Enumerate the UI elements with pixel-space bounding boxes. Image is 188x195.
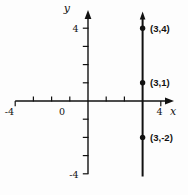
- x-axis-arrowhead-icon: [165, 98, 174, 105]
- y-axis-variable-label: y: [63, 2, 71, 15]
- coordinate-plane-figure: (3,4)(3,1)(3,-2) y x 4 -4 0 -4 4: [0, 0, 188, 195]
- series-layer: [140, 12, 146, 177]
- data-point: [140, 135, 145, 140]
- x-axis-variable-label: x: [170, 105, 177, 118]
- point-label: (3,1): [150, 77, 170, 88]
- y-axis-min-tick-label: -4: [69, 169, 78, 180]
- points-layer: (3,4)(3,1)(3,-2): [140, 23, 173, 143]
- plot-svg: (3,4)(3,1)(3,-2) y x 4 -4 0 -4 4: [0, 0, 188, 195]
- y-axis-arrowhead-icon: [85, 10, 92, 19]
- x-axis-min-tick-label: -4: [5, 106, 14, 117]
- origin-tick-label: 0: [59, 106, 65, 117]
- y-axis-max-tick-label: 4: [72, 23, 78, 34]
- data-point: [140, 80, 145, 85]
- line-top-arrowhead-icon: [140, 12, 146, 20]
- data-point: [140, 26, 145, 31]
- x-axis-max-tick-label: 4: [156, 106, 162, 117]
- point-label: (3,4): [150, 23, 170, 34]
- point-label: (3,-2): [150, 132, 173, 143]
